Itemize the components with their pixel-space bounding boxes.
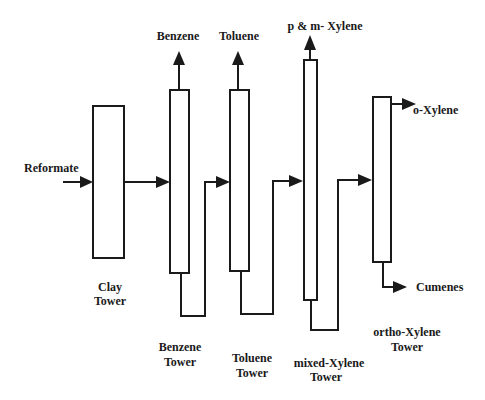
process-flow-diagram: Reformate Clay Tower Benzene Benzene Tow… <box>0 0 485 400</box>
feed-label: Reformate <box>24 161 79 175</box>
toluene-bottoms-arrowhead <box>289 175 303 187</box>
ortho-xylene-tower-label-2: Tower <box>391 340 424 354</box>
toluene-tower-label-1: Toluene <box>232 351 273 365</box>
pm-xylene-product-label: p & m- Xylene <box>288 19 364 33</box>
toluene-product-label: Toluene <box>219 29 260 43</box>
mixed-xylene-tower <box>304 60 317 300</box>
toluene-overhead-arrowhead <box>232 51 244 65</box>
mixed-xylene-tower-label-1: mixed-Xylene <box>294 356 365 370</box>
ortho-xylene-tower-label-1: ortho-Xylene <box>373 325 441 339</box>
cumenes-arrowhead <box>393 281 407 293</box>
benzene-tower <box>170 90 189 273</box>
clay-tower <box>93 106 124 258</box>
o-xylene-product-label: o-Xylene <box>413 103 459 117</box>
benzene-tower-label-2: Tower <box>164 355 197 369</box>
pm-xylene-overhead-arrowhead <box>304 35 316 50</box>
benzene-bottoms-arrowhead <box>216 176 230 188</box>
mixed-xylene-bottoms-arrowhead <box>358 174 372 186</box>
clay-tower-label-1: Clay <box>98 280 122 294</box>
toluene-tower <box>230 90 249 271</box>
benzene-tower-label-1: Benzene <box>159 340 202 354</box>
toluene-tower-label-2: Tower <box>236 366 269 380</box>
benzene-overhead-arrowhead <box>173 51 185 65</box>
mixed-xylene-bottoms-line <box>311 180 361 330</box>
clay-to-benzene-arrowhead <box>156 176 170 188</box>
feed-arrowhead <box>80 176 93 188</box>
benzene-product-label: Benzene <box>157 29 200 43</box>
cumenes-product-label: Cumenes <box>416 280 464 294</box>
clay-tower-label-2: Tower <box>94 294 127 308</box>
mixed-xylene-tower-label-2: Tower <box>310 370 343 384</box>
ortho-xylene-tower <box>373 97 391 262</box>
